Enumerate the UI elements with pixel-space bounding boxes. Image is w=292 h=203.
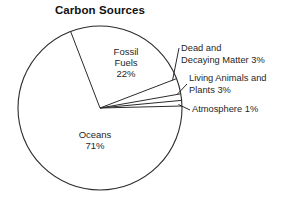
slice-label-dead-decaying-matter: Dead and Decaying Matter 3% <box>181 43 265 66</box>
slice-label-fossil-fuels: Fossil Fuels 22% <box>96 46 156 79</box>
slice-label-atmosphere: Atmosphere 1% <box>192 104 258 116</box>
slice-label-oceans: Oceans 71% <box>52 129 138 151</box>
pie-chart-graphic <box>0 0 292 203</box>
slice-edge-dead-end <box>100 79 177 108</box>
slice-label-living-animals-plants: Living Animals and Plants 3% <box>189 73 267 96</box>
leader-line-atmosphere <box>179 105 191 111</box>
pie-chart-figure: Carbon Sources Fossil Fuels 22% Oceans 7… <box>0 0 292 203</box>
